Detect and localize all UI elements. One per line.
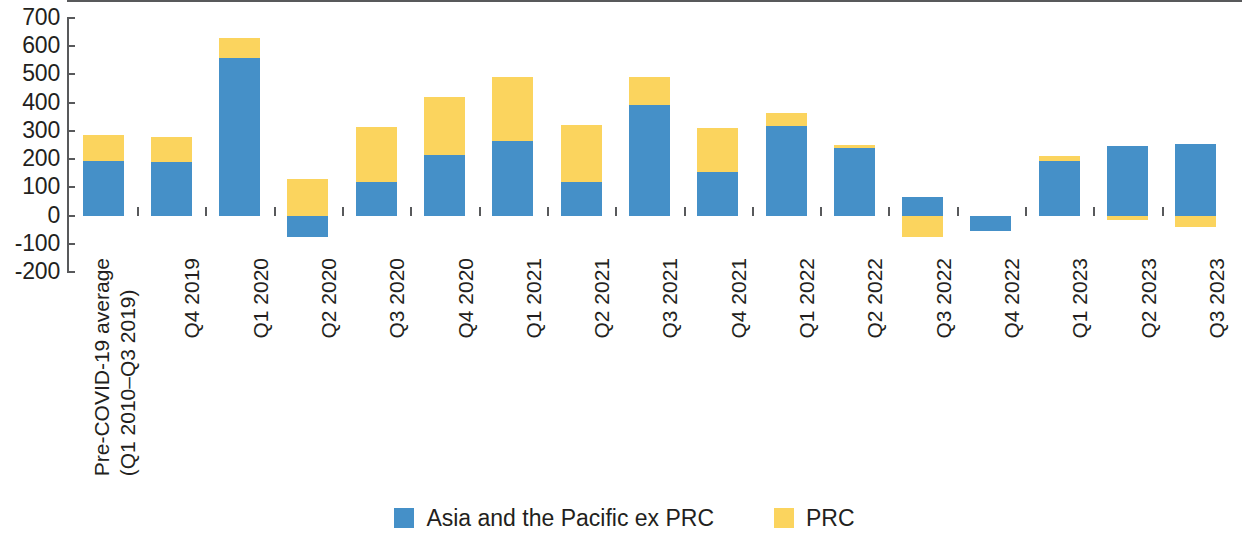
bar-segment: [287, 179, 328, 216]
x-axis-category-labels: Pre-COVID-19 average (Q1 2010–Q3 2019)Q4…: [0, 258, 1249, 498]
bar-segment: [151, 137, 192, 162]
bar-segment: [151, 162, 192, 216]
bar-segment: [1175, 144, 1216, 216]
x-axis-category-label: Q4 2019: [180, 258, 204, 339]
bar-segment: [697, 128, 738, 172]
x-axis-category-label: Q2 2021: [590, 258, 614, 339]
bar-segment: [766, 113, 807, 126]
legend-label: PRC: [806, 507, 855, 530]
chart-legend: Asia and the Pacific ex PRCPRC: [0, 498, 1249, 538]
x-axis-category-label: Q2 2020: [317, 258, 341, 339]
bar-segment: [970, 216, 1011, 232]
x-axis-category-label: Q3 2022: [932, 258, 956, 339]
x-axis-category-label: Q4 2021: [727, 258, 751, 339]
x-axis-category-label: Pre-COVID-19 average (Q1 2010–Q3 2019): [89, 258, 141, 476]
legend-swatch-blue: [394, 508, 414, 528]
bar-segment: [834, 145, 875, 148]
bar-segment: [1039, 161, 1080, 216]
bar-segment: [629, 77, 670, 105]
x-axis-category-label: Q4 2020: [454, 258, 478, 339]
x-axis-category-label: Q1 2021: [522, 258, 546, 339]
plot-area: 7006005004003002001000-100-200: [0, 0, 1249, 290]
bar-segment: [424, 155, 465, 216]
x-axis-category-label: Q2 2023: [1137, 258, 1161, 339]
x-axis-category-label: Q1 2020: [249, 258, 273, 339]
x-axis-category-label: Q1 2022: [795, 258, 819, 339]
x-axis-category-label: Q3 2021: [658, 258, 682, 339]
bar-segment: [1175, 216, 1216, 227]
bar-segment: [356, 182, 397, 216]
bar-segment: [83, 161, 124, 216]
bar-segment: [424, 97, 465, 155]
bar-segment: [83, 135, 124, 160]
legend-label: Asia and the Pacific ex PRC: [426, 507, 714, 530]
stacked-bar-chart: 7006005004003002001000-100-200 Pre-COVID…: [0, 0, 1249, 549]
x-axis-category-label: Q4 2022: [1000, 258, 1024, 339]
bar-segment: [492, 77, 533, 141]
bars-layer: [0, 0, 1249, 290]
bar-segment: [219, 38, 260, 58]
bar-segment: [629, 105, 670, 215]
bar-segment: [902, 216, 943, 237]
bar-segment: [561, 125, 602, 182]
legend-item[interactable]: Asia and the Pacific ex PRC: [394, 507, 714, 530]
bar-segment: [561, 182, 602, 215]
bar-segment: [697, 172, 738, 216]
x-axis-category-label: Q3 2023: [1205, 258, 1229, 339]
bar-segment: [1039, 156, 1080, 160]
x-axis-category-label: Q3 2020: [385, 258, 409, 339]
bar-segment: [287, 216, 328, 237]
bar-segment: [219, 58, 260, 216]
x-axis-category-label: Q1 2023: [1068, 258, 1092, 339]
legend-swatch-yellow: [774, 508, 794, 528]
bar-segment: [834, 148, 875, 216]
bar-segment: [356, 127, 397, 182]
x-axis-category-label: Q2 2022: [863, 258, 887, 339]
bar-segment: [1107, 146, 1148, 215]
bar-segment: [1107, 216, 1148, 220]
legend-item[interactable]: PRC: [774, 507, 855, 530]
bar-segment: [902, 197, 943, 215]
bar-segment: [766, 126, 807, 216]
bar-segment: [492, 141, 533, 216]
